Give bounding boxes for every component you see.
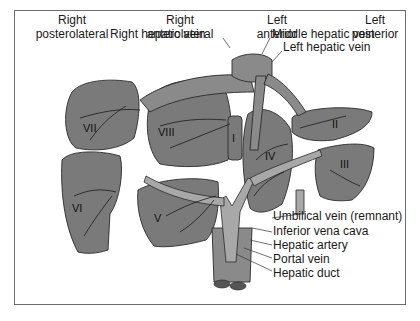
leader-hepatic-artery: [250, 240, 272, 245]
segment-vi-lobe: [62, 152, 122, 253]
leader-left-hepatic-vein: [272, 51, 282, 62]
segment-vii-lobe: [66, 80, 139, 150]
label-inferior-vena-cava: Inferior vena cava: [273, 225, 368, 238]
segment-iii-lobe: [315, 144, 374, 201]
label-left-hepatic-vein: Left hepatic vein: [283, 41, 370, 54]
label-right-hepatic-vein: Right hepatic vein: [110, 28, 205, 41]
left-hepatic-vein-shape: [264, 74, 306, 116]
vessel-stump: [214, 280, 230, 288]
segment-label-ii: II: [332, 118, 338, 130]
segment-label-i: I: [232, 132, 235, 144]
label-hepatic-artery: Hepatic artery: [273, 239, 348, 252]
segment-label-vii: VII: [83, 122, 96, 134]
label-umbilical-vein: Umbilical vein (remnant): [273, 210, 402, 223]
leader-right-hepatic-vein: [223, 38, 230, 48]
segment-v-lobe: [138, 179, 219, 247]
label-portal-vein: Portal vein: [273, 253, 330, 266]
vessel-stump: [230, 282, 246, 290]
leader-ivc: [252, 228, 272, 232]
segment-label-viii: VIII: [158, 126, 175, 138]
label-hepatic-duct: Hepatic duct: [273, 267, 340, 280]
segment-label-iii: III: [340, 158, 349, 170]
segment-label-vi: VI: [72, 202, 82, 214]
leader-middle-hepatic-vein: [262, 38, 270, 54]
segment-label-iv: IV: [265, 150, 276, 162]
segment-label-v: V: [154, 212, 162, 224]
